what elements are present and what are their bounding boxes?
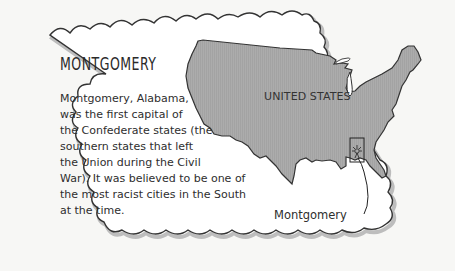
description-line: the Confederate states (the — [60, 123, 235, 139]
description-line: Montgomery, Alabama, — [60, 91, 235, 107]
country-label: UNITED STATES — [264, 90, 351, 103]
description-line: at the time. — [60, 203, 235, 219]
description-line: War). It was believed to be one of — [60, 171, 235, 187]
city-label: Montgomery — [274, 208, 347, 222]
montgomery-info-card: MONTGOMERY Montgomery, Alabama, was the … — [0, 0, 455, 271]
description-line: the most racist cities in the South — [60, 187, 235, 203]
description-line: southern states that left — [60, 139, 235, 155]
description-line: was the first capital of — [60, 107, 235, 123]
page-title: MONTGOMERY — [60, 54, 156, 74]
description-line: the Union during the Civil — [60, 155, 235, 171]
description-text: Montgomery, Alabama, was the first capit… — [60, 91, 235, 219]
